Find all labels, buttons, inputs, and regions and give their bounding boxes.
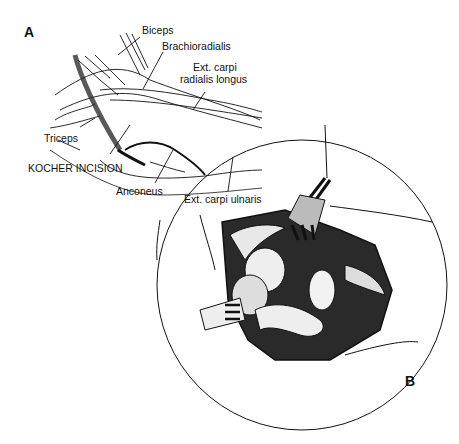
label-biceps: Biceps	[142, 24, 174, 36]
panel-label-a: A	[24, 24, 34, 40]
panel-label-b: B	[405, 373, 415, 389]
label-ext-carpi-ulnaris: Ext. carpi ulnaris	[184, 193, 262, 205]
label-kocher-incision: KOCHER INCISION	[28, 162, 123, 174]
label-anconeus: Anconeus	[116, 185, 163, 197]
label-triceps: Triceps	[44, 132, 78, 144]
label-ecrl-line2: radialis longus	[180, 73, 247, 85]
label-brachioradialis: Brachioradialis	[162, 40, 231, 52]
label-ecrl-line1: Ext. carpi	[193, 61, 237, 73]
